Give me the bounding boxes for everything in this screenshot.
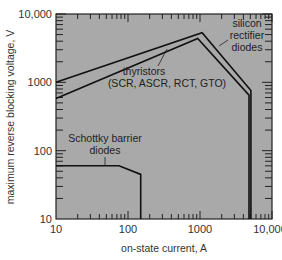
x-axis-label: on-state current, A xyxy=(121,242,207,254)
thyristor-label-1: thyristors xyxy=(123,65,166,77)
x-tick-1000: 1000 xyxy=(188,223,212,235)
x-tick-100: 100 xyxy=(119,223,137,235)
schottky-label-2: diodes xyxy=(90,144,121,156)
x-tick-10000: 10,000 xyxy=(253,223,282,235)
x-axis-tick-labels: 10 100 1000 10,000 xyxy=(50,223,282,235)
y-tick-1000: 1000 xyxy=(28,76,52,88)
silicon-label-2: rectifier xyxy=(230,29,265,41)
y-tick-10000: 10,000 xyxy=(18,8,52,20)
chart: 10,000 1000 100 10 10 100 1000 10,000 on… xyxy=(0,0,282,260)
silicon-label-3: diodes xyxy=(232,41,263,53)
y-axis-label: maximum reverse blocking voltage, V xyxy=(4,30,16,205)
schottky-label-1: Schottky barrier xyxy=(68,132,142,144)
y-tick-100: 100 xyxy=(34,145,52,157)
thyristor-label-2: (SCR, ASCR, RCT, GTO) xyxy=(108,77,226,89)
y-axis-tick-labels: 10,000 1000 100 10 xyxy=(18,8,52,225)
x-tick-10: 10 xyxy=(50,223,62,235)
silicon-label-1: silicon xyxy=(232,17,261,29)
